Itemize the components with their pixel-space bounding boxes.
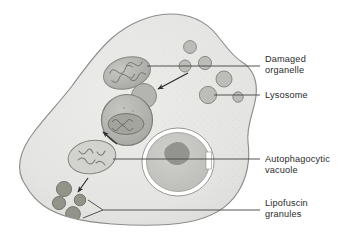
label-damaged-organelle-line2: organelle <box>265 65 304 75</box>
cell-autophagy-diagram: Damaged organelle Lysosome Autophagocyti… <box>0 0 342 248</box>
label-autophagocytic-vacuole-line2: vacuole <box>265 165 298 175</box>
label-lipofuscin-granules-line2: granules <box>265 209 302 219</box>
figure-canvas: Damaged organelle Lysosome Autophagocyti… <box>0 0 342 248</box>
label-lysosome: Lysosome <box>265 90 308 100</box>
label-damaged-organelle-line1: Damaged <box>265 54 306 64</box>
label-autophagocytic-vacuole-line1: Autophagocytic <box>265 154 330 164</box>
label-group: Damaged organelle Lysosome Autophagocyti… <box>265 54 330 219</box>
nucleus <box>142 128 214 196</box>
label-lipofuscin-granules-line1: Lipofuscin <box>265 198 308 208</box>
